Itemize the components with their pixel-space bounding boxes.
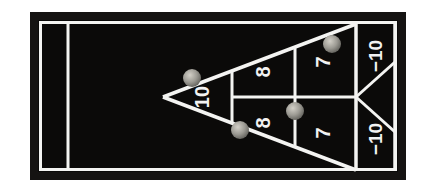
- disc-on-divider: [286, 102, 304, 120]
- zone-label-10: 10: [191, 86, 213, 108]
- court-svg: 10 8 8 7 7 −10 −10: [0, 0, 432, 192]
- disc-lower-triangle-edge: [231, 121, 249, 139]
- shuffleboard-court-diagram: 10 8 8 7 7 −10 −10: [0, 0, 432, 192]
- zone-label-minus10-bottom: −10: [365, 123, 386, 155]
- zone-label-minus10-top: −10: [365, 40, 386, 72]
- zone-label-7-top: 7: [312, 56, 334, 67]
- zone-label-8-bottom: 8: [252, 117, 274, 128]
- disc-in-upper-7: [323, 35, 341, 53]
- zone-label-7-bottom: 7: [312, 127, 334, 138]
- zone-label-8-top: 8: [252, 66, 274, 77]
- disc-upper-triangle-edge: [183, 69, 201, 87]
